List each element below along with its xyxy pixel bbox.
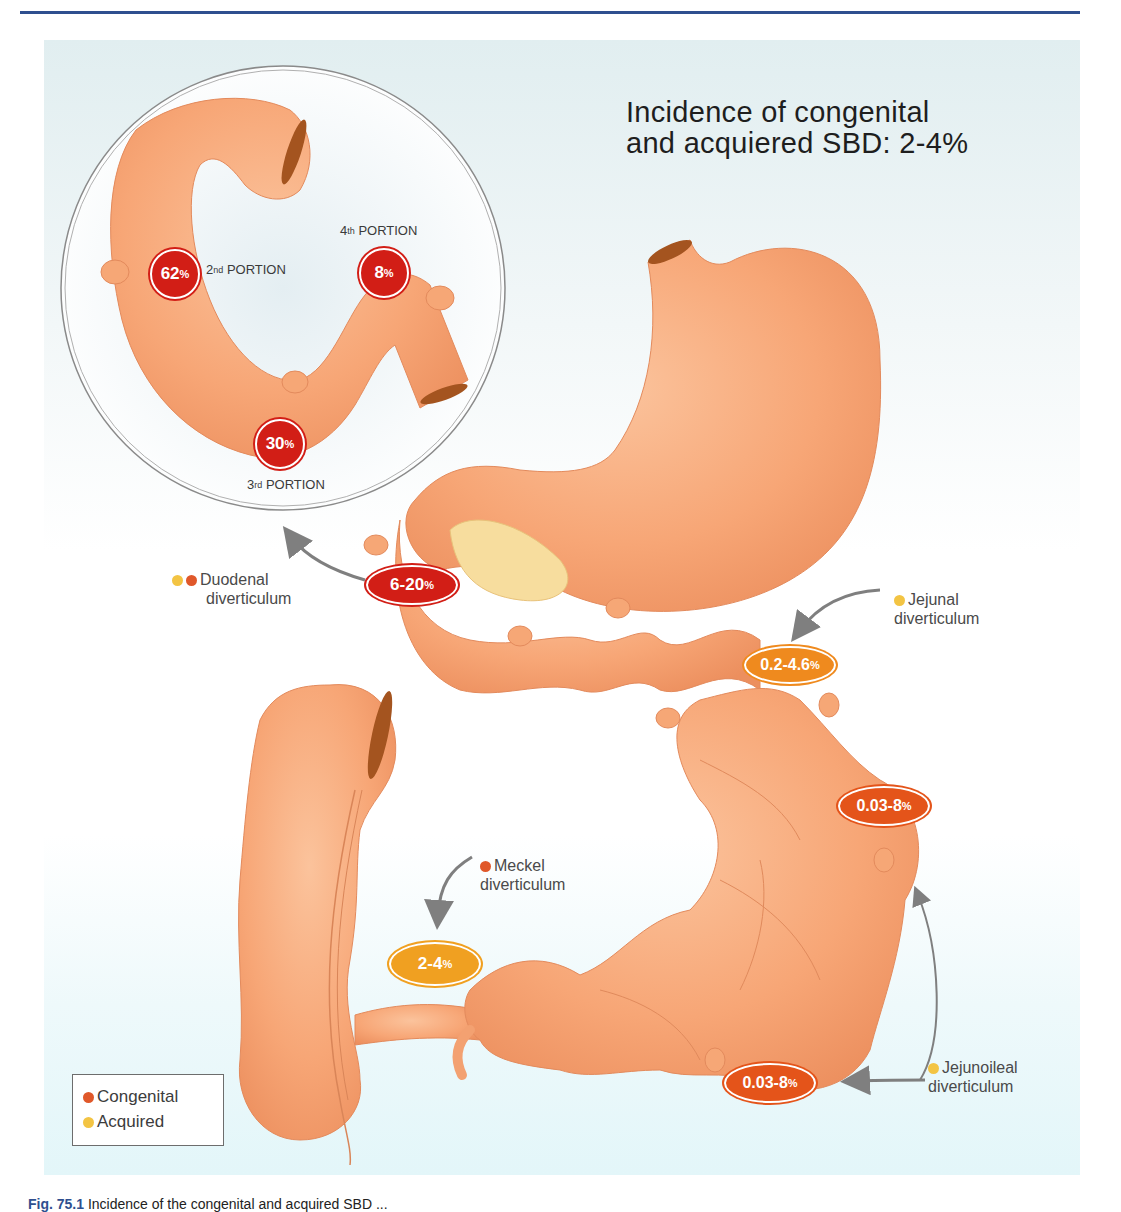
badge-unit: % bbox=[902, 800, 912, 812]
label-meckel-diverticulum: Meckel diverticulum bbox=[480, 856, 565, 894]
portion-suffix: nd bbox=[213, 265, 223, 275]
label-jejunoileal-diverticulum: Jejunoileal diverticulum bbox=[928, 1058, 1018, 1096]
label-line-2: diverticulum bbox=[894, 610, 979, 627]
acquired-marker-icon bbox=[83, 1117, 94, 1128]
badge-value: 6-20 bbox=[390, 575, 424, 595]
label-jejunal-diverticulum: Jejunal diverticulum bbox=[894, 590, 979, 628]
portion-text: PORTION bbox=[358, 223, 417, 238]
label-line-1: Jejunoileal bbox=[942, 1059, 1018, 1076]
figure-caption: Fig. 75.1 Incidence of the congenital an… bbox=[28, 1196, 388, 1212]
badge-unit: % bbox=[810, 659, 820, 671]
legend-item-acquired: Acquired bbox=[83, 1112, 164, 1132]
badge-unit: % bbox=[788, 1077, 798, 1089]
badge-unit: % bbox=[384, 267, 394, 279]
badge-value: 0.03-8 bbox=[742, 1074, 787, 1092]
portion-text: PORTION bbox=[227, 262, 286, 277]
badge-unit: % bbox=[180, 268, 190, 280]
label-duodenal-diverticulum: Duodenal diverticulum bbox=[172, 570, 291, 608]
label-line-1: Jejunal bbox=[908, 591, 959, 608]
badge-jejunal: 0.2-4.6% bbox=[744, 646, 836, 684]
badge-unit: % bbox=[424, 579, 434, 591]
label-line-2: diverticulum bbox=[480, 876, 565, 893]
badge-jejunoileal-upper: 0.03-8% bbox=[838, 786, 930, 826]
title-line-1: Incidence of congenital bbox=[626, 97, 968, 128]
badge-value: 30 bbox=[266, 434, 285, 454]
caption-text: Incidence of the congenital and acquired… bbox=[88, 1196, 388, 1212]
badge-value: 8 bbox=[374, 263, 383, 283]
badge-duodenal: 6-20% bbox=[366, 565, 458, 605]
acquired-marker-icon bbox=[928, 1063, 939, 1074]
portion-label-3rd: 3rd PORTION bbox=[247, 477, 325, 492]
portion-label-2nd: 2nd PORTION bbox=[206, 262, 286, 277]
portion-text: PORTION bbox=[266, 477, 325, 492]
acquired-marker-icon bbox=[894, 595, 905, 606]
legend-item-congenital: Congenital bbox=[83, 1087, 178, 1107]
legend: Congenital Acquired bbox=[72, 1074, 224, 1146]
acquired-marker-icon bbox=[172, 575, 183, 586]
badge-3rd-portion: 30% bbox=[255, 419, 305, 469]
badge-unit: % bbox=[442, 958, 452, 970]
congenital-marker-icon bbox=[83, 1092, 94, 1103]
legend-label: Acquired bbox=[97, 1112, 164, 1131]
badge-value: 0.03-8 bbox=[856, 797, 901, 815]
badge-value: 0.2-4.6 bbox=[760, 656, 810, 674]
badge-value: 2-4 bbox=[418, 954, 443, 974]
portion-suffix: th bbox=[347, 226, 355, 236]
legend-label: Congenital bbox=[97, 1087, 178, 1106]
caption-label: Fig. 75.1 bbox=[28, 1196, 84, 1212]
label-line-1: Meckel bbox=[494, 857, 545, 874]
badge-4th-portion: 8% bbox=[359, 248, 409, 298]
badge-value: 62 bbox=[161, 264, 180, 284]
portion-suffix: rd bbox=[254, 480, 262, 490]
label-line-2: diverticulum bbox=[928, 1078, 1013, 1095]
badge-unit: % bbox=[285, 438, 295, 450]
colon bbox=[239, 685, 480, 1165]
title-line-2: and acquiered SBD: 2-4% bbox=[626, 128, 968, 159]
congenital-marker-icon bbox=[480, 861, 491, 872]
badge-2nd-portion: 62% bbox=[150, 249, 200, 299]
label-line-2: diverticulum bbox=[172, 590, 291, 607]
badge-meckel: 2-4% bbox=[389, 942, 481, 986]
badge-jejunoileal: 0.03-8% bbox=[724, 1063, 816, 1103]
portion-label-4th: 4th PORTION bbox=[340, 223, 417, 238]
figure-title: Incidence of congenital and acquiered SB… bbox=[626, 97, 968, 159]
label-line-1: Duodenal bbox=[200, 571, 269, 588]
congenital-marker-icon bbox=[186, 575, 197, 586]
